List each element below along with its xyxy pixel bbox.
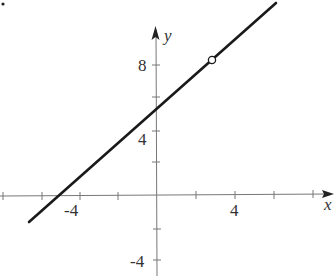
x-tick-label-4: 4 <box>230 201 239 220</box>
y-tick-label-4: 4 <box>138 130 147 149</box>
line-graph: -4 4 x 8 4 -4 y <box>0 0 336 276</box>
x-tick-label-neg4: -4 <box>64 201 79 220</box>
corner-dot <box>1 2 4 5</box>
y-tick-label-neg4: -4 <box>130 252 145 271</box>
y-axis-arrow-icon <box>152 26 160 40</box>
y-tick-label-8: 8 <box>138 56 147 75</box>
y-axis: 8 4 -4 y <box>130 26 172 276</box>
plotted-line <box>29 3 276 222</box>
x-axis-label: x <box>323 195 332 214</box>
y-axis-label: y <box>162 26 172 45</box>
open-circle-marker <box>208 56 215 63</box>
